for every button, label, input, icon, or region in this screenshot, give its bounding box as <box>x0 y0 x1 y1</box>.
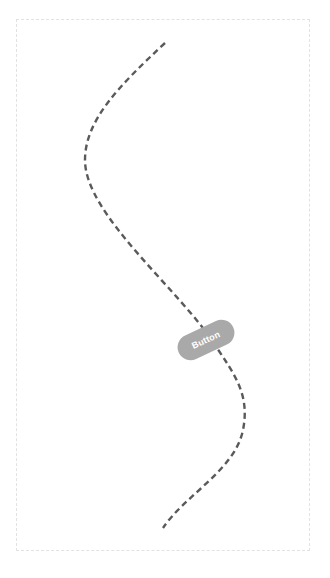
button-label: Button <box>190 329 222 351</box>
dashed-curve <box>85 43 245 528</box>
motion-path <box>0 0 330 578</box>
